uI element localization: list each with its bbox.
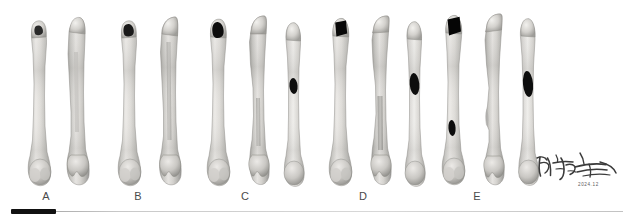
bone-body-A2 xyxy=(67,17,89,184)
specimen-B2 xyxy=(152,12,188,190)
bone-body-A1 xyxy=(28,21,51,186)
scale-bar xyxy=(11,209,56,214)
specimen-group-B: B xyxy=(100,0,195,190)
specimen-C3 xyxy=(278,18,310,190)
specimen-A1 xyxy=(24,14,58,190)
specimen-B1 xyxy=(114,14,148,190)
specimen-E2 xyxy=(475,10,511,190)
bone-body-B2 xyxy=(160,17,182,185)
specimen-E1 xyxy=(438,12,473,190)
scale-bar-group xyxy=(0,206,629,218)
group-label-A: A xyxy=(36,190,56,202)
specimen-group-A: A xyxy=(0,0,100,190)
specimen-group-C: C xyxy=(195,0,315,190)
bone-body-D1 xyxy=(329,18,352,185)
group-label-E: E xyxy=(467,190,487,202)
bone-body-E1 xyxy=(442,15,465,184)
scale-baseline xyxy=(11,211,623,212)
figure-panel: A xyxy=(0,0,629,224)
group-label-B: B xyxy=(128,190,148,202)
specimen-C2 xyxy=(240,12,276,190)
group-label-D: D xyxy=(353,190,373,202)
bone-body-D2 xyxy=(371,16,391,185)
bone-body-C1 xyxy=(207,19,230,186)
bone-body-C2 xyxy=(249,16,269,185)
specimen-C1 xyxy=(203,14,238,190)
handwritten-signature: 2024.12 xyxy=(534,148,626,192)
specimen-D3 xyxy=(399,18,431,190)
specimen-D1 xyxy=(325,14,360,190)
specimen-group-D: D xyxy=(315,0,435,190)
bone-body-D3 xyxy=(405,22,425,187)
bone-body-C3 xyxy=(284,23,304,187)
specimen-D2 xyxy=(362,12,398,190)
bone-body-B1 xyxy=(118,21,141,186)
signature-date: 2024.12 xyxy=(578,182,599,187)
group-label-C: C xyxy=(235,190,255,202)
specimen-A2 xyxy=(60,12,96,190)
bone-body-E2 xyxy=(484,14,504,185)
